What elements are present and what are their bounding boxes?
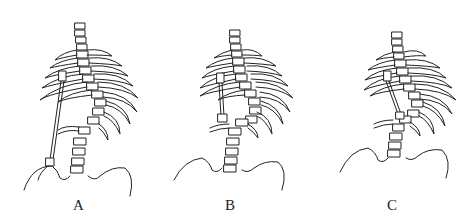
spine-illustration-a xyxy=(0,0,160,224)
vertebrae xyxy=(71,23,106,173)
vertebrae xyxy=(388,32,423,157)
panel-label-a: A xyxy=(73,197,84,214)
spine-illustration-b xyxy=(150,0,320,224)
panel-b: B xyxy=(150,0,320,224)
panel-c: C xyxy=(310,0,475,224)
panel-a: A xyxy=(0,0,160,224)
spine-illustration-c xyxy=(310,0,475,224)
panel-label-c: C xyxy=(387,197,397,214)
panel-label-b: B xyxy=(225,197,235,214)
